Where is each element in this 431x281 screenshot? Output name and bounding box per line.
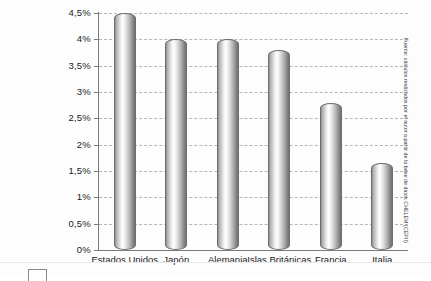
x-tick-label: Alemania	[208, 254, 248, 265]
y-tick-mark	[94, 92, 99, 93]
gridline	[99, 171, 408, 172]
y-tick-label: 4%	[77, 33, 91, 44]
x-tick-label: Francia	[315, 254, 347, 265]
y-tick-mark	[94, 250, 99, 251]
gridline	[99, 224, 408, 225]
bar	[114, 13, 136, 250]
gridline	[99, 197, 408, 198]
y-tick-mark	[94, 13, 99, 14]
bar-chart: 0%0,5%1%1,5%2%2,5%3%3,5%4%4,5% Estados U…	[0, 0, 431, 258]
y-tick-label: 1%	[77, 191, 91, 202]
gridline	[99, 13, 408, 14]
bottom-divider	[0, 262, 431, 263]
x-tick-label: Japón	[163, 254, 189, 265]
y-tick-label: 4,5%	[69, 7, 91, 18]
bar	[371, 163, 393, 250]
bar	[268, 50, 290, 250]
y-tick-label: 0%	[77, 244, 91, 255]
y-tick-label: 0,5%	[69, 218, 91, 229]
bar	[165, 39, 187, 250]
y-tick-mark	[94, 171, 99, 172]
y-tick-mark	[94, 118, 99, 119]
y-tick-label: 3,5%	[69, 60, 91, 71]
bar	[320, 103, 342, 250]
y-tick-label: 2%	[77, 139, 91, 150]
x-tick-label: Estados Unidos	[91, 254, 158, 265]
gridline	[99, 118, 408, 119]
y-tick-label: 3%	[77, 86, 91, 97]
gridline	[99, 92, 408, 93]
x-tick-label: Italia	[372, 254, 392, 265]
y-tick-mark	[94, 224, 99, 225]
bar	[217, 39, 239, 250]
y-tick-mark	[94, 39, 99, 40]
y-tick-label: 2,5%	[69, 112, 91, 123]
legend-box-fragment	[28, 269, 47, 281]
gridline	[99, 145, 408, 146]
x-axis-line	[98, 250, 408, 251]
gridline	[99, 39, 408, 40]
x-tick-label: Islas Británicas	[247, 254, 311, 265]
source-note: Fuente: cálculos realizados por el autor…	[403, 38, 409, 248]
y-tick-mark	[94, 66, 99, 67]
gridline	[99, 66, 408, 67]
y-axis-labels: 0%0,5%1%1,5%2%2,5%3%3,5%4%4,5%	[0, 0, 91, 258]
plot-area	[99, 13, 408, 250]
y-tick-mark	[94, 197, 99, 198]
y-tick-mark	[94, 145, 99, 146]
y-tick-label: 1,5%	[69, 165, 91, 176]
